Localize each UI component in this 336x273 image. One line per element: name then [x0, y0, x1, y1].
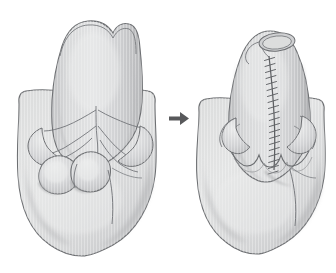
medical-illustration-figure: Surgical repair before-and-after illustr…	[0, 0, 336, 273]
ventral-lobe-right-highlight	[77, 159, 99, 181]
shaft-highlight-left	[68, 32, 120, 112]
illustration-canvas	[0, 0, 336, 273]
shaft-highlight-right	[240, 42, 288, 122]
ventral-lobe-left-highlight	[44, 161, 68, 183]
scrotum-highlight-right	[214, 170, 294, 234]
